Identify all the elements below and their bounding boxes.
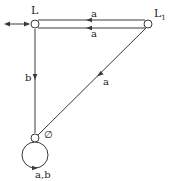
initial-arrow-icon xyxy=(4,22,30,27)
edge-L1-to-empty xyxy=(38,28,146,135)
state-empty xyxy=(31,134,39,142)
edge-label-b: b xyxy=(25,72,31,83)
state-label-empty: ∅ xyxy=(44,129,53,140)
state-L1 xyxy=(144,20,152,28)
state-diagram: a a b a a,b L L1 ∅ xyxy=(0,0,174,181)
edge-label-diag: a xyxy=(103,76,109,87)
edge-label-loop: a,b xyxy=(35,169,51,180)
self-loop-empty xyxy=(22,142,48,170)
state-label-L1: L1 xyxy=(154,7,166,22)
edge-label-bottom: a xyxy=(91,28,97,39)
edge-label-top: a xyxy=(91,8,97,19)
edge-L-to-empty xyxy=(33,29,38,133)
state-L xyxy=(31,20,39,28)
state-label-L: L xyxy=(31,4,39,17)
